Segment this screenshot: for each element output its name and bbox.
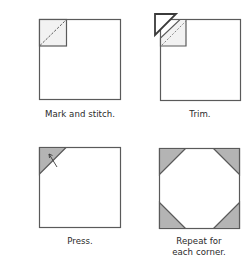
step-repeat-figure	[160, 149, 240, 229]
diagram-canvas	[0, 0, 249, 268]
step-trim-figure	[155, 14, 241, 101]
caption-trim: Trim.	[140, 109, 249, 120]
caption-press: Press.	[20, 236, 140, 247]
caption-repeat: Repeat for each corner.	[139, 236, 249, 257]
step-press-figure	[40, 148, 121, 228]
caption-mark-and-stitch: Mark and stitch.	[20, 109, 140, 120]
step-mark-and-stitch-figure	[40, 20, 121, 100]
